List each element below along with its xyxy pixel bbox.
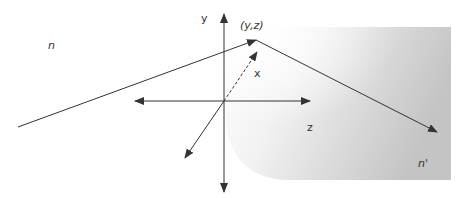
label-axis-x: x (254, 68, 261, 79)
incident-ray (18, 40, 256, 127)
label-axis-y: y (201, 13, 208, 24)
label-n-prime: n' (418, 158, 428, 169)
refraction-diagram (0, 0, 468, 198)
lens-surface (224, 27, 451, 180)
label-n: n (48, 40, 55, 51)
x-axis-back (185, 101, 224, 158)
label-point-yz: (y,z) (240, 20, 264, 31)
label-axis-z: z (307, 122, 313, 133)
